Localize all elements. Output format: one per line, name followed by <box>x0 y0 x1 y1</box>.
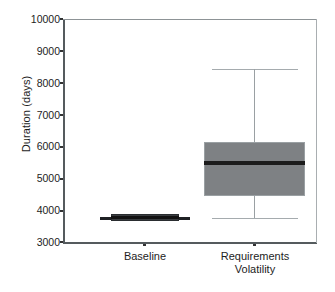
y-tick-label-10000: 10000 <box>20 14 60 25</box>
y-tick-label-6000: 6000 <box>20 141 60 152</box>
x-tick-label-requirements-volatility-line2: Volatility <box>204 263 306 276</box>
x-tickmark-baseline <box>143 244 146 246</box>
y-axis-tick-labels: 10000 9000 8000 7000 6000 5000 4000 3000 <box>12 0 60 292</box>
x-tick-label-requirements-volatility-line1: Requirements <box>204 250 306 263</box>
rv-whisker-cap-low <box>212 218 298 219</box>
y-tick-label-3000: 3000 <box>20 237 60 248</box>
y-tick-label-9000: 9000 <box>20 46 60 57</box>
baseline-median-line <box>111 216 179 219</box>
box-plot-chart: Duration (days) 10000 9000 8000 7000 600… <box>0 0 335 292</box>
y-tick-label-4000: 4000 <box>20 205 60 216</box>
baseline-whisker-high <box>178 217 190 220</box>
plot-axis-bottom <box>63 242 317 244</box>
rv-median-line <box>204 161 305 165</box>
rv-box-rect <box>204 142 305 196</box>
y-tick-label-5000: 5000 <box>20 173 60 184</box>
rv-whisker-cap-high <box>212 69 298 70</box>
plot-frame-right <box>316 19 317 243</box>
rv-whisker-line-high <box>254 69 255 143</box>
x-tickmark-requirements-volatility <box>253 244 256 246</box>
y-tick-label-7000: 7000 <box>20 110 60 121</box>
plot-frame-top <box>63 19 317 20</box>
y-tick-label-8000: 8000 <box>20 78 60 89</box>
rv-whisker-line-low <box>254 196 255 219</box>
x-tick-label-baseline: Baseline <box>101 250 189 263</box>
plot-axis-left <box>63 19 65 243</box>
